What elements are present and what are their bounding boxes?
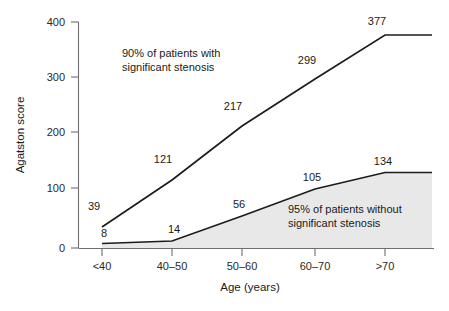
x-axis-tick-labels: <40 40–50 50–60 60–70 >70 (93, 260, 395, 272)
upper-point-label-1: 121 (154, 153, 172, 165)
agatston-score-chart: Agatston score 400 300 200 100 0 (0, 0, 449, 311)
y-tick-label-0: 0 (59, 242, 65, 254)
upper-point-label-0: 39 (88, 200, 100, 212)
chart-canvas: Agatston score 400 300 200 100 0 (0, 0, 449, 311)
upper-annotation-line-2: significant stenosis (122, 61, 215, 73)
y-tick-label-200: 200 (47, 126, 65, 138)
y-tick-label-400: 400 (47, 16, 65, 28)
y-tick-label-100: 100 (47, 182, 65, 194)
x-tick-label-60-70: 60–70 (300, 260, 331, 272)
lower-point-label-3: 105 (303, 171, 321, 183)
y-axis-ticks (71, 22, 79, 248)
upper-point-label-2: 217 (224, 100, 242, 112)
x-axis-title: Age (years) (220, 281, 280, 293)
lower-point-label-2: 56 (233, 198, 245, 210)
lower-annotation-line-1: 95% of patients without (288, 203, 402, 215)
x-tick-label-40-50: 40–50 (157, 260, 188, 272)
y-tick-label-300: 300 (47, 71, 65, 83)
x-tick-label-under-40: <40 (93, 260, 112, 272)
lower-point-label-1: 14 (168, 223, 180, 235)
upper-annotation: 90% of patients with significant stenosi… (122, 47, 220, 73)
x-axis-ticks (102, 249, 385, 257)
upper-point-label-3: 299 (298, 54, 316, 66)
y-axis-title: Agatston score (14, 97, 26, 174)
y-axis-tick-labels: 400 300 200 100 0 (47, 16, 65, 254)
lower-point-label-4: 134 (374, 155, 392, 167)
lower-annotation-line-2: significant stenosis (288, 217, 381, 229)
upper-annotation-line-1: 90% of patients with (122, 47, 220, 59)
lower-point-label-0: 8 (101, 227, 107, 239)
x-tick-label-50-60: 50–60 (227, 260, 258, 272)
x-tick-label-over-70: >70 (376, 260, 395, 272)
upper-point-label-4: 377 (368, 15, 386, 27)
